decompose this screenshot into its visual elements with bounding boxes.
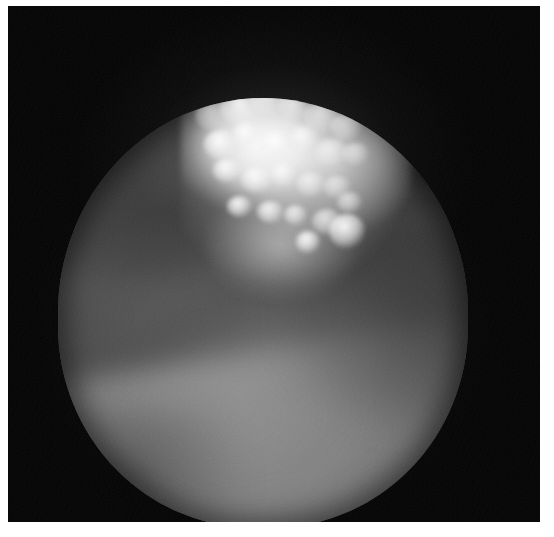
papillary-frond [227,196,252,217]
papillary-frond [257,201,285,224]
papillary-frond [296,172,326,197]
papillary-frond-layer [181,98,411,287]
endoscopic-image-viewer: Grayscale endoscopic photograph showing … [0,0,554,537]
papillary-frond [284,205,307,226]
papillary-frond [337,192,362,213]
photo-frame [8,6,540,522]
papillary-frond [232,122,262,147]
secondary-highlight-nodule-small [296,231,321,253]
papillary-frond [241,167,273,192]
papillary-frond [342,143,370,166]
circular-endoscope-field [58,98,468,522]
paper-margin-bottom [0,522,554,537]
field-notch-upper-right-secondary [411,102,464,141]
papillary-frond [330,114,362,141]
paper-margin-left [0,0,8,537]
bottom-left-shadow [58,408,247,522]
field-of-view-container [8,6,540,522]
paper-margin-top [0,0,554,6]
papillary-frond [271,163,296,186]
papillary-frond [213,159,241,182]
paper-margin-right [540,0,554,537]
